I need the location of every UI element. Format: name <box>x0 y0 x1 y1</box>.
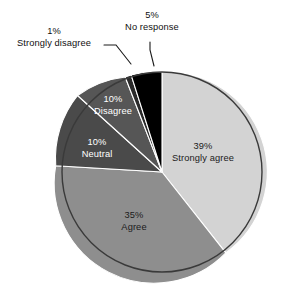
slice-label-agree-percent: 35% <box>125 210 144 220</box>
slice-label-neutral-name: Neutral <box>82 149 113 159</box>
slice-label-strongly-agree-name: Strongly agree <box>172 153 234 163</box>
slice-label-strongly-disagree-name: Strongly disagree <box>17 38 91 48</box>
pie-chart: 39% Strongly agree 35% Agree 10% Neutral… <box>0 0 284 293</box>
slice-label-disagree-name: Disagree <box>94 106 132 116</box>
slice-label-strongly-agree-percent: 39% <box>194 141 213 151</box>
slice-label-neutral-percent: 10% <box>88 137 107 147</box>
slice-label-agree-name: Agree <box>121 222 146 232</box>
leader-line-no-response <box>150 42 154 66</box>
slice-label-no-response-name: No response <box>125 22 179 32</box>
slice-label-strongly-disagree-percent: 1% <box>47 26 61 36</box>
slice-label-disagree-percent: 10% <box>104 94 123 104</box>
pie-chart-canvas: 39% Strongly agree 35% Agree 10% Neutral… <box>0 0 284 293</box>
slice-label-no-response-percent: 5% <box>145 10 159 20</box>
leader-line-strongly-disagree <box>104 45 131 64</box>
